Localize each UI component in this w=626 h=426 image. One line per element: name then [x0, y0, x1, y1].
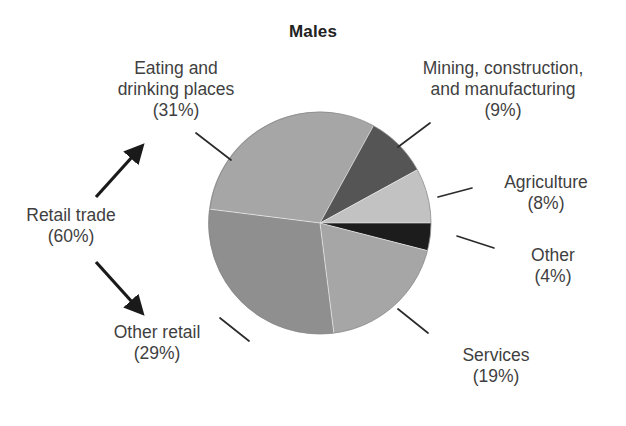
- label-line-1: Other: [531, 245, 575, 265]
- label-line-1: Other retail: [114, 322, 201, 342]
- label-percent: (4%): [503, 266, 603, 287]
- arrow-retail-to-other-retail: [96, 262, 142, 313]
- label-percent: (19%): [441, 366, 551, 387]
- pie-chart-figure: Males: [0, 0, 626, 426]
- label-other-retail: Other retail (29%): [82, 322, 232, 364]
- pie-slice-other-retail: [208, 209, 334, 334]
- label-agriculture: Agriculture (8%): [481, 172, 611, 214]
- leader-line-other: [457, 236, 494, 248]
- leader-line-mining: [398, 123, 430, 147]
- label-mining-construction-manufacturing: Mining, construction, and manufacturing …: [398, 58, 608, 121]
- label-other: Other (4%): [503, 245, 603, 287]
- label-percent: (29%): [82, 343, 232, 364]
- label-eating-and-drinking-places: Eating and drinking places (31%): [86, 58, 266, 121]
- label-line-1: Services: [462, 345, 529, 365]
- label-percent: (60%): [6, 226, 136, 247]
- label-services: Services (19%): [441, 345, 551, 387]
- label-percent: (8%): [481, 193, 611, 214]
- leader-line-eating-drinking: [196, 133, 231, 160]
- label-percent: (31%): [86, 100, 266, 121]
- arrow-retail-to-eating-drinking: [96, 146, 142, 197]
- label-percent: (9%): [398, 100, 608, 121]
- label-line-1: Eating and: [134, 58, 218, 78]
- label-line-2: and manufacturing: [431, 79, 576, 99]
- label-line-2: drinking places: [118, 79, 235, 99]
- leader-line-services: [398, 309, 428, 333]
- label-retail-trade: Retail trade (60%): [6, 205, 136, 247]
- leader-line-agriculture: [438, 188, 472, 197]
- label-line-1: Agriculture: [504, 172, 588, 192]
- label-line-1: Retail trade: [26, 205, 116, 225]
- label-line-1: Mining, construction,: [423, 58, 584, 78]
